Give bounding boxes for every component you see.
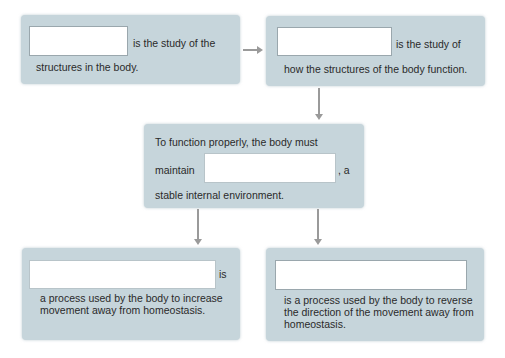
positive-feedback-blank-input[interactable] [29, 260, 216, 289]
positive-feedback-text-line3: movement away from homeostasis. [40, 304, 205, 317]
anatomy-blank-input[interactable] [29, 26, 128, 56]
homeostasis-text-line1: To function properly, the body must [155, 136, 318, 149]
homeostasis-box: To function properly, the body must main… [144, 124, 364, 208]
positive-feedback-box: is a process used by the body to increas… [22, 248, 240, 340]
positive-feedback-text-is: is [219, 268, 227, 281]
anatomy-box: is the study of the structures in the bo… [21, 15, 240, 84]
anatomy-text-line2: structures in the body. [36, 61, 139, 74]
homeostasis-text-after-blank: , a [338, 164, 350, 177]
negative-feedback-blank-input[interactable] [275, 260, 467, 290]
physiology-blank-input[interactable] [277, 27, 392, 56]
anatomy-text-line1: is the study of the [133, 37, 215, 50]
homeostasis-blank-input[interactable] [204, 153, 336, 183]
negative-feedback-text-line3: homeostasis. [284, 318, 346, 331]
physiology-text-line2: how the structures of the body function. [284, 63, 467, 76]
homeostasis-text-line3: stable internal environment. [155, 189, 284, 202]
physiology-text-line1: is the study of [396, 38, 461, 51]
negative-feedback-box: is a process used by the body to reverse… [266, 248, 484, 341]
homeostasis-text-maintain: maintain [155, 164, 195, 177]
physiology-box: is the study of how the structures of th… [266, 16, 485, 86]
